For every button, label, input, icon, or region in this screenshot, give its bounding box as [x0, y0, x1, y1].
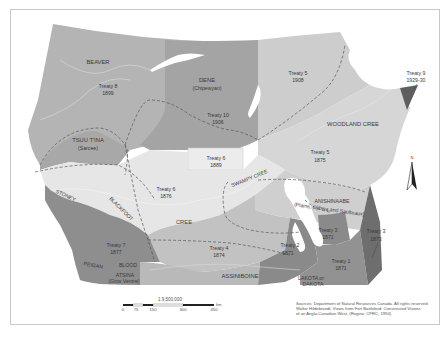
scale-bar: 0 75 150 300 450 km [122, 302, 222, 312]
label-treaty3-inner-year: 1871 [322, 234, 334, 240]
label-dene-sub: (Chipewyan) [192, 85, 221, 91]
scale-tick-0: 0 [122, 307, 125, 312]
label-anishinaabe: ANISHINAABE [315, 198, 350, 204]
treaty-map: BEAVER Treaty 8 1899 DENE (Chipewyan) Tr… [0, 0, 447, 345]
label-cree: CREE [176, 219, 192, 225]
label-treaty3: Treaty 3 [367, 228, 386, 234]
label-dakota: DAKOTA [303, 281, 324, 287]
scale-unit: km [216, 302, 222, 307]
label-treaty10-year: 1906 [212, 119, 224, 125]
label-treaty7: Treaty 7 [107, 242, 126, 248]
sources-line: of an Anglo-Canadian West, (Regina: CPRC… [296, 311, 436, 316]
label-treaty7-year: 1877 [110, 249, 122, 255]
label-treaty9: Treaty 9 [407, 70, 426, 76]
north-arrow-icon [412, 162, 417, 190]
label-treaty3-inner: Treaty 3 [319, 227, 338, 233]
label-treaty4-year: 1874 [213, 252, 225, 258]
label-treaty5-1908: Treaty 5 [289, 70, 308, 76]
label-treaty8-year: 1899 [102, 90, 114, 96]
scale-tick-450: 450 [211, 307, 219, 312]
label-treaty3-year: 1873 [370, 236, 382, 242]
label-treaty6-1876: Treaty 6 [157, 186, 176, 192]
label-treaty6-1876-year: 1876 [160, 193, 172, 199]
scale-ratio: 1:9,500,000 [150, 297, 190, 302]
scale-tick-300: 300 [180, 307, 188, 312]
label-treaty6-1889: Treaty 6 [207, 155, 226, 161]
label-treaty6-1889-year: 1889 [210, 162, 222, 168]
label-treaty2-year: 1871 [282, 250, 294, 256]
label-treaty8: Treaty 8 [99, 83, 118, 89]
label-treaty9-year: 1929-30 [406, 77, 425, 83]
label-treaty5-1875-year: 1875 [314, 157, 326, 163]
label-blood: BLOOD [119, 262, 137, 268]
label-assiniboine: ASSINIBOINE [221, 273, 258, 279]
scale-tick-150: 150 [150, 307, 158, 312]
label-woodland-cree: WOODLAND CREE [327, 121, 379, 127]
label-treaty1: Treaty 1 [332, 258, 351, 264]
scale-tick-75: 75 [134, 307, 139, 312]
sources-note: Sources: Department of Natural Resources… [296, 301, 436, 316]
label-atsina-sub: (Gros Ventre) [108, 278, 139, 284]
label-tsuu-tina: TSUU T'INA [72, 137, 104, 143]
label-tsuu-tina-sub: (Sarcee) [78, 145, 98, 151]
north-arrow-icon [407, 162, 412, 190]
north-arrow-label: N [411, 155, 414, 160]
label-beaver: BEAVER [86, 59, 109, 65]
label-treaty4: Treaty 4 [210, 245, 229, 251]
label-treaty5-1908-year: 1908 [292, 77, 304, 83]
label-treaty1-year: 1871 [335, 265, 347, 271]
label-treaty5-1875: Treaty 5 [311, 149, 330, 155]
north-arrow: N [407, 155, 417, 190]
label-treaty2: Treaty 2 [281, 242, 300, 248]
label-treaty10: Treaty 10 [207, 112, 229, 118]
label-dene: DENE [199, 77, 215, 83]
